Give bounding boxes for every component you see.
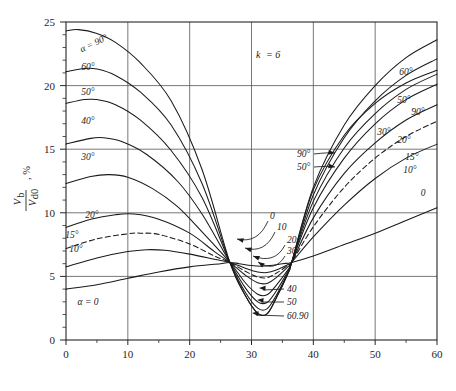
right-curve-label: 20° (397, 135, 411, 145)
dip-lower-arrow-label: 50 (287, 297, 297, 307)
chart-container: 01020304050600510152025 α = 90°60°50°40°… (0, 0, 456, 391)
left-curve-label: 60° (81, 62, 95, 72)
left-curve-label: 20° (85, 210, 99, 220)
dip-upper-arrow-label: 20 (287, 235, 297, 245)
y-tick-label: 10 (44, 207, 56, 219)
y-axis-percent: , % (21, 166, 32, 180)
y-tick-label: 15 (44, 143, 56, 155)
dip-upper-arrow-label: 10 (277, 222, 287, 232)
y-tick-label: 0 (50, 334, 56, 346)
left-curve-label: α = 0 (78, 297, 99, 307)
right-curve-label: 90° (411, 107, 425, 117)
chart-background (0, 0, 456, 391)
k-value-note: k = 6 (256, 49, 280, 60)
right-curve-label: 10° (403, 165, 417, 175)
x-tick-label: 50 (370, 348, 382, 360)
k-equals-value: = 6 (266, 49, 280, 60)
dip-lower-arrow-label: 60.90 (287, 311, 309, 321)
y-tick-label: 20 (44, 80, 56, 92)
right-curve-label: 15° (405, 152, 419, 162)
k-symbol: k (256, 49, 261, 60)
dip-upper-arrow-label: 30 (286, 246, 297, 256)
y-tick-label: 25 (44, 16, 56, 28)
right-curve-label: 60° (399, 67, 413, 77)
dip-lower-arrow-label: 40 (287, 284, 297, 294)
left-curve-label: 10° (69, 244, 83, 254)
overlap-angle-chart: 01020304050600510152025 α = 90°60°50°40°… (0, 0, 456, 391)
y-tick-label: 5 (50, 270, 56, 282)
right-curve-label: 50° (397, 95, 411, 105)
dip-upper-arrow-label: 0 (270, 211, 275, 221)
x-tick-label: 0 (63, 348, 69, 360)
x-tick-label: 30 (246, 348, 258, 360)
right-curve-label: 30° (376, 127, 391, 137)
left-curve-label: 30° (80, 152, 95, 162)
y-axis-denominator-subscript: d0 (29, 189, 40, 200)
left-curve-label: 15° (65, 230, 79, 240)
left-curve-label: 50° (81, 87, 95, 97)
right-curve-label: 0 (421, 188, 426, 198)
x-tick-label: 40 (308, 348, 320, 360)
pinch-arrow-label: 90° (297, 149, 311, 159)
x-tick-label: 20 (184, 348, 196, 360)
y-axis-numerator-subscript: b (15, 192, 26, 197)
x-tick-label: 60 (432, 348, 444, 360)
pinch-arrow-label: 50° (297, 162, 311, 172)
left-curve-label: 40° (81, 116, 95, 126)
x-tick-label: 10 (122, 348, 134, 360)
